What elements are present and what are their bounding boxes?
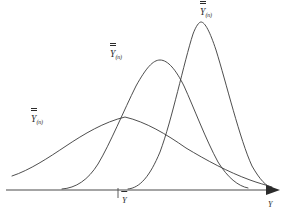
- y-bar-symbol-medium: Y: [110, 50, 115, 60]
- curve-label-wide: Y(n): [31, 115, 43, 125]
- y-bar-symbol-axis: Y: [122, 195, 127, 205]
- curve-narrow: [128, 22, 272, 189]
- curve-medium: [62, 60, 248, 189]
- curve-label-narrow: Y(n): [200, 8, 212, 18]
- curve-subscript-medium: (n): [115, 54, 121, 60]
- x-axis-variable-label: Y: [268, 200, 272, 209]
- sampling-distribution-figure: Y(n) Y(n) Y(n) Y Y: [0, 0, 288, 213]
- axis-mean-label: Y: [122, 195, 127, 205]
- curve-subscript-narrow: (n): [205, 12, 211, 18]
- x-axis-arrowhead: [266, 185, 280, 195]
- y-bar-symbol-wide: Y: [31, 115, 36, 125]
- curve-label-medium: Y(n): [110, 50, 122, 60]
- curve-wide: [12, 117, 272, 187]
- y-bar-symbol-narrow: Y: [200, 8, 205, 18]
- curve-subscript-wide: (n): [36, 119, 42, 125]
- plot-canvas: [0, 0, 288, 213]
